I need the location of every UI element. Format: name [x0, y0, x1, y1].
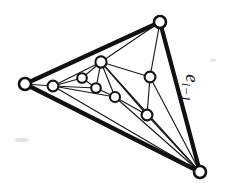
edge-label-base: e — [182, 74, 203, 82]
vertex-small-lower — [91, 83, 101, 93]
vertex-small-upper — [77, 73, 87, 83]
outer-edge-left-top — [25, 22, 160, 84]
vertex-hub — [95, 56, 106, 67]
vertex-outer-top — [154, 16, 166, 28]
scan-speck — [210, 58, 216, 61]
edge-label-subscript: i−1 — [179, 83, 194, 102]
figure-canvas: ei−1 — [0, 0, 225, 183]
edge-label-group: ei−1 — [179, 74, 203, 101]
vertex-right-lower — [142, 110, 153, 121]
vertex-right-upper — [145, 72, 156, 83]
triangulation-diagram: ei−1 — [0, 0, 225, 183]
scan-speck — [15, 138, 29, 142]
vertex-outer-bottom-right — [194, 166, 206, 178]
edge-rightupper-to-top — [150, 22, 160, 77]
vertex-outer-left — [19, 78, 31, 90]
edge-label-e-i-minus-1: ei−1 — [179, 74, 203, 101]
vertex-mid-low — [110, 92, 120, 102]
vertex-inner-left — [48, 81, 59, 92]
